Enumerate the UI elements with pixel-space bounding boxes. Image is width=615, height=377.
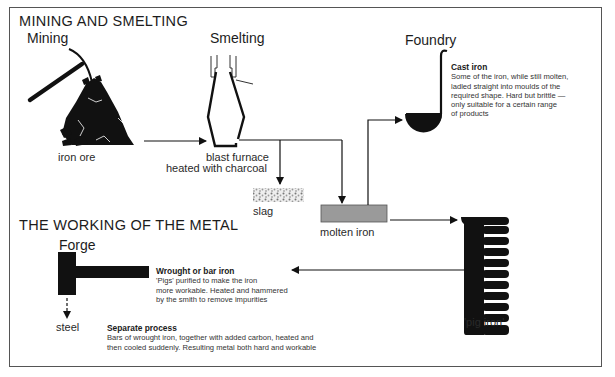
note-line: required shape. Hard but brittle —: [451, 91, 601, 100]
label-molten-iron: molten iron: [320, 227, 374, 238]
ore-pile-icon: [60, 75, 134, 146]
note-line: then cooled suddenly. Resulting metal bo…: [107, 343, 367, 352]
stage-title-foundry: Foundry: [405, 33, 456, 47]
section-title-working-metal: THE WORKING OF THE METAL: [19, 218, 238, 233]
label-steel: steel: [56, 322, 79, 333]
note-wrought-iron: Wrought or bar iron 'Pigs' purified to m…: [156, 267, 316, 304]
ladle-icon: [405, 51, 447, 133]
blast-furnace-icon: [208, 55, 253, 146]
note-line: of products: [451, 109, 601, 118]
note-line: 'Pigs' purified to make the iron: [156, 276, 316, 285]
note-cast-iron-title: Cast iron: [451, 63, 601, 72]
note-line: by the smith to remove impurities: [156, 295, 316, 304]
stage-title-smelting: Smelting: [210, 31, 264, 45]
arrow-molten-to-foundry: [368, 120, 402, 205]
label-heated-with-charcoal: heated with charcoal: [166, 163, 267, 174]
stage-title-mining: Mining: [27, 31, 68, 45]
forge-hammer-icon: [58, 252, 149, 295]
label-slag: slag: [253, 206, 273, 217]
stage-title-forge: Forge: [59, 238, 96, 252]
note-line: only suitable for a certain range: [451, 100, 601, 109]
note-wrought-iron-title: Wrought or bar iron: [156, 267, 316, 276]
note-line: more workable. Heated and hammered: [156, 286, 316, 295]
note-cast-iron: Cast iron Some of the iron, while still …: [451, 63, 601, 119]
note-line: Some of the iron, while still molten,: [451, 72, 601, 81]
section-title-mining-smelting: MINING AND SMELTING: [19, 14, 188, 29]
note-line: Bars of wrought iron, together with adde…: [107, 333, 367, 342]
label-pig-iron: 'pig iron': [464, 317, 504, 328]
note-separate-process-title: Separate process: [107, 324, 367, 333]
label-iron-ore: iron ore: [58, 152, 95, 163]
note-line: ladled straight into moulds of the: [451, 82, 601, 91]
note-separate-process: Separate process Bars of wrought iron, t…: [107, 324, 367, 352]
diagram-artwork: [0, 0, 615, 377]
molten-iron-block: [321, 205, 387, 222]
slag-icon: [253, 188, 304, 202]
